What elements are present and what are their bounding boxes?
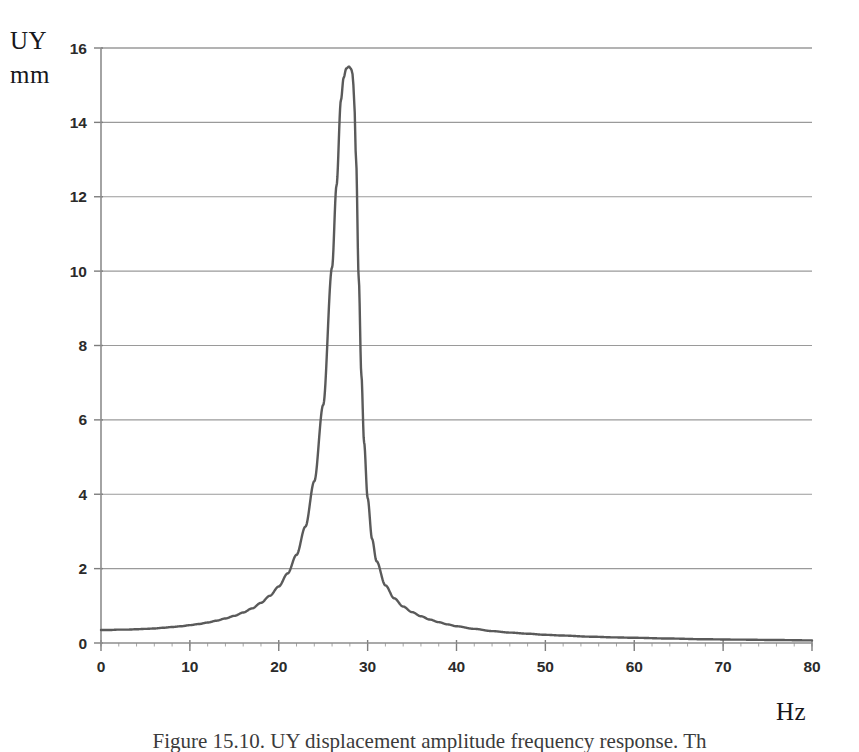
ytick-label-0: 0	[78, 635, 87, 652]
x-axis-tick-labels: 01020304050607080	[97, 658, 821, 675]
ytick-label-8: 8	[78, 337, 87, 354]
ytick-label-10: 10	[70, 263, 87, 280]
ytick-label-2: 2	[78, 560, 87, 577]
xtick-label-20: 20	[270, 658, 287, 675]
xtick-label-50: 50	[537, 658, 554, 675]
xtick-label-70: 70	[715, 658, 732, 675]
ytick-label-4: 4	[78, 486, 87, 503]
xtick-label-40: 40	[448, 658, 465, 675]
x-axis-title-hz: Hz	[776, 697, 806, 727]
ytick-label-12: 12	[70, 188, 87, 205]
data-series-line	[101, 67, 812, 641]
xtick-label-30: 30	[359, 658, 376, 675]
figure-container: UY mm Hz 0246810121416 01020304050607080…	[0, 0, 859, 752]
xtick-label-10: 10	[181, 658, 198, 675]
ytick-label-14: 14	[70, 114, 88, 131]
figure-caption: Figure 15.10. UY displacement amplitude …	[0, 728, 859, 752]
xtick-label-60: 60	[626, 658, 643, 675]
ytick-label-16: 16	[70, 40, 88, 57]
y-axis-tick-labels: 0246810121416	[70, 40, 88, 652]
frequency-response-plot: 0246810121416 01020304050607080	[0, 0, 859, 700]
grid-lines	[101, 48, 812, 569]
ytick-label-6: 6	[78, 411, 87, 428]
xtick-label-80: 80	[803, 658, 820, 675]
xtick-label-0: 0	[97, 658, 106, 675]
